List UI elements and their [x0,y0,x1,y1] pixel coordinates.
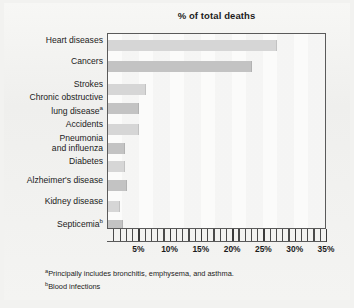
y-axis-label: Chronic obstructivelung diseasea [0,93,103,116]
x-axis-tick [326,229,327,242]
x-axis-line [107,241,326,242]
x-axis-tick-label: 10% [161,244,178,254]
bar [108,220,123,229]
bar [108,61,252,72]
y-axis-label: Kidney disease [0,197,103,207]
chart-title: % of total deaths [107,10,326,21]
y-axis-label: Cancers [0,57,103,67]
x-axis-tick-label: 35% [318,244,335,254]
x-axis-tick-labels: 5%10%15%20%25%30%35% [107,244,326,258]
bar [108,103,139,114]
bar-row [108,143,325,154]
x-axis-tick-label: 5% [132,244,144,254]
bar-row [108,84,325,95]
bar [108,124,139,135]
footnote: aPrincipally includes bronchitis, emphys… [45,266,335,279]
bar [108,180,127,191]
y-axis-label: Strokes [0,80,103,90]
bar-row [108,180,325,191]
y-axis-label: Diabetes [0,157,103,167]
bar-row [108,220,325,229]
bar [108,201,120,212]
bar-row [108,161,325,172]
bar [108,84,146,95]
x-axis-tick-label: 15% [192,244,209,254]
footnote-list: aPrincipally includes bronchitis, emphys… [45,266,335,293]
bar-row [108,124,325,135]
footnote: bBlood infections [45,279,335,292]
x-axis-tick-label: 25% [255,244,272,254]
bar [108,40,277,51]
y-axis-label: Pneumoniaand influenza [0,134,103,153]
y-axis-label: Heart diseases [0,36,103,46]
x-axis-tick-label: 20% [224,244,241,254]
bar [108,161,125,172]
bar-row [108,61,325,72]
y-axis-label: Alzheimer's disease [0,176,103,186]
bar-row [108,103,325,114]
bar [108,143,125,154]
y-axis-label: Accidents [0,120,103,130]
chart-figure: % of total deaths Heart diseasesCancersS… [0,0,354,308]
plot-area [107,33,326,229]
bar-row [108,201,325,212]
bar-row [108,40,325,51]
x-axis-tick-label: 30% [286,244,303,254]
y-axis-label: Septicemiab [0,216,103,229]
bar-series [108,34,325,228]
